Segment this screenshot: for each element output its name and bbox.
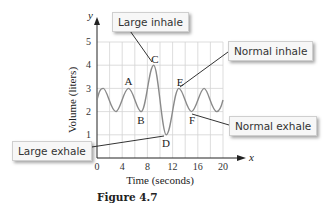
x-axis-variable: x — [248, 151, 254, 163]
x-axis-title: Time (seconds) — [126, 174, 194, 187]
point-label-e: E — [177, 76, 184, 88]
svg-text:8: 8 — [145, 161, 150, 172]
point-label-f: F — [189, 114, 195, 126]
callout-normal-exhale: Normal exhale — [229, 116, 317, 136]
callout-large-exhale: Large exhale — [12, 141, 92, 161]
svg-text:16: 16 — [193, 161, 203, 172]
point-label-a: A — [125, 75, 133, 87]
x-tick-labels: 0 4 8 12 16 20 — [95, 161, 229, 172]
svg-text:4: 4 — [120, 161, 125, 172]
svg-text:20: 20 — [218, 161, 228, 172]
point-label-b: B — [137, 114, 144, 126]
callout-large-inhale: Large inhale — [112, 12, 189, 32]
x-axis-arrow-icon — [237, 155, 246, 161]
svg-text:1: 1 — [86, 129, 91, 140]
y-axis-arrow-icon — [94, 17, 100, 25]
y-axis-title: Volume (liters) — [66, 67, 79, 133]
figure-caption: Figure 4.7 — [97, 191, 158, 203]
y-axis-variable: y — [87, 9, 93, 21]
svg-text:12: 12 — [168, 161, 178, 172]
svg-text:4: 4 — [86, 59, 91, 70]
callout-normal-inhale: Normal inhale — [228, 41, 313, 61]
y-tick-labels: 5 4 3 2 1 — [86, 36, 91, 140]
point-label-c: C — [151, 53, 158, 65]
point-label-d: D — [162, 137, 170, 149]
svg-text:3: 3 — [86, 83, 91, 94]
svg-text:0: 0 — [95, 161, 100, 172]
svg-text:2: 2 — [86, 106, 91, 117]
svg-text:5: 5 — [86, 36, 91, 47]
